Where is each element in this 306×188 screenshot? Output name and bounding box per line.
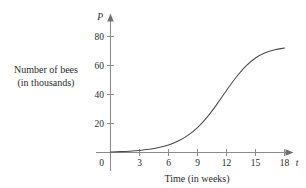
plot-area: 80 60 40 20 0 3 6 9 12 15 18 P t Time (i… bbox=[0, 0, 306, 188]
y-tick-label-80: 80 bbox=[95, 32, 105, 42]
x-tick-label-3: 3 bbox=[137, 158, 142, 168]
y-tick-label-40: 40 bbox=[95, 90, 105, 100]
x-tick-label-12: 12 bbox=[222, 158, 232, 168]
bee-population-figure: Number of bees (in thousands) 80 60 40 2… bbox=[0, 0, 306, 188]
origin-label: 0 bbox=[99, 158, 104, 168]
x-tick-label-6: 6 bbox=[166, 158, 171, 168]
y-axis-variable-label: P bbox=[96, 12, 103, 22]
x-axis-arrowhead bbox=[286, 149, 294, 155]
x-axis-title: Time (in weeks) bbox=[164, 173, 229, 185]
bee-population-curve bbox=[111, 48, 285, 152]
x-tick-label-18: 18 bbox=[280, 158, 290, 168]
x-tick-label-15: 15 bbox=[251, 158, 261, 168]
x-axis-variable-label: t bbox=[296, 158, 299, 168]
y-tick-label-60: 60 bbox=[95, 61, 105, 71]
y-axis-arrowhead bbox=[107, 14, 113, 22]
y-tick-label-20: 20 bbox=[95, 119, 105, 129]
x-tick-label-9: 9 bbox=[195, 158, 200, 168]
